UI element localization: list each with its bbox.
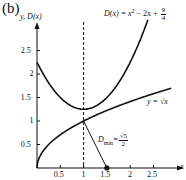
x-tick-label: 1.5 — [100, 171, 110, 179]
y-tick-label: 2.5 — [21, 47, 31, 55]
y-tick-label: 1.5 — [21, 94, 31, 102]
y-axis-arrow-icon — [35, 22, 40, 29]
curve-D-of-x — [37, 20, 148, 110]
D-eq-fraction: 94 — [161, 7, 167, 22]
sqrt-eq-text: y = √x — [147, 97, 168, 106]
axis-ticks — [37, 51, 154, 169]
dmin-sub: min — [104, 140, 113, 146]
dmin-eq: = — [113, 135, 118, 144]
y-tick-label: 0.5 — [21, 141, 31, 149]
D-equation-label: D(x) = x2 − 2x + 94 — [104, 7, 166, 22]
dmin-den: 2 — [121, 141, 127, 148]
x-axis-title: x — [180, 163, 184, 171]
x-tick-label: 1 — [81, 171, 85, 179]
y-axis-title: y, D(x) — [20, 13, 42, 21]
x-tick-label: 2 — [128, 171, 132, 179]
dmin-label: Dmin=√52 — [98, 133, 128, 148]
x-tick-label: 0.5 — [54, 171, 64, 179]
D-eq-lhs: D(x) = x — [104, 9, 132, 18]
plot-area — [0, 0, 186, 180]
sqrt-label: y = √x — [147, 98, 168, 106]
chart-figure: (b) 0.511.522.50.511.522.5 y, D(x) x D(x… — [0, 0, 186, 180]
y-tick-label: 1 — [30, 117, 34, 125]
x-tick-label: 2.5 — [147, 171, 157, 179]
dmin-fraction: √52 — [119, 133, 128, 148]
y-tick-label: 2 — [30, 70, 34, 78]
D-eq-den: 4 — [161, 15, 167, 22]
D-eq-mid: − 2x + — [135, 9, 160, 18]
